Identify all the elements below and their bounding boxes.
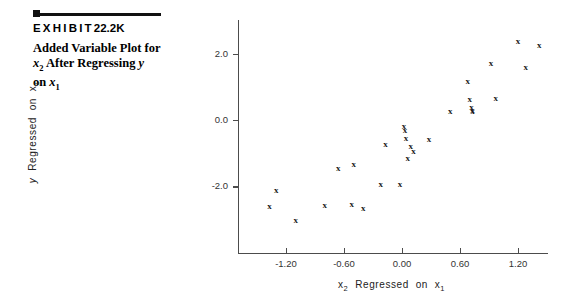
data-point-marker: x: [522, 62, 530, 71]
data-point-marker: x: [492, 94, 500, 103]
y-axis-line: [238, 20, 239, 254]
data-point-marker: x: [272, 185, 280, 194]
data-point-marker: x: [446, 107, 454, 116]
data-point-marker: x: [321, 201, 329, 210]
x-tick-mark: [402, 248, 403, 254]
x-tick-mark: [344, 248, 345, 254]
data-point-marker: x: [535, 41, 543, 50]
x-tick-label: -0.60: [324, 258, 364, 269]
y-axis-title: y Regressed on x1: [27, 72, 41, 192]
data-point-marker: x: [266, 201, 274, 210]
data-point-marker: x: [350, 160, 358, 169]
data-point-marker: x: [469, 107, 477, 116]
x-tick-label: 0.00: [382, 258, 422, 269]
x-tick-label: 0.60: [440, 258, 480, 269]
exhibit-figure: EXHIBIT22.2K Added Variable Plot for x2 …: [0, 0, 588, 305]
y-tick-mark: [233, 54, 239, 55]
data-point-marker: x: [348, 200, 356, 209]
x-tick-mark: [460, 248, 461, 254]
data-point-marker: x: [425, 135, 433, 144]
y-tick-label: 2.0: [194, 48, 228, 59]
data-point-marker: x: [514, 37, 522, 46]
scatter-plot: 2.00.0-2.0-1.20-0.600.000.601.20 xxxxxxx…: [0, 0, 588, 305]
data-point-marker: x: [464, 77, 472, 86]
x-tick-label: 1.20: [498, 258, 538, 269]
data-point-marker: x: [377, 180, 385, 189]
x-tick-label: -1.20: [266, 258, 306, 269]
y-tick-label: 0.0: [194, 114, 228, 125]
x-tick-mark: [518, 248, 519, 254]
y-tick-mark: [233, 186, 239, 187]
x-axis-title: x2 Regressed on x1: [338, 279, 445, 293]
x-axis-line: [238, 253, 548, 254]
data-point-marker: x: [359, 204, 367, 213]
data-point-marker: x: [292, 215, 300, 224]
y-tick-label: -2.0: [194, 180, 228, 191]
y-tick-mark: [233, 120, 239, 121]
data-point-marker: x: [382, 139, 390, 148]
x-tick-mark: [286, 248, 287, 254]
data-point-marker: x: [396, 180, 404, 189]
data-point-marker: x: [410, 146, 418, 155]
data-point-marker: x: [487, 58, 495, 67]
data-point-marker: x: [334, 164, 342, 173]
